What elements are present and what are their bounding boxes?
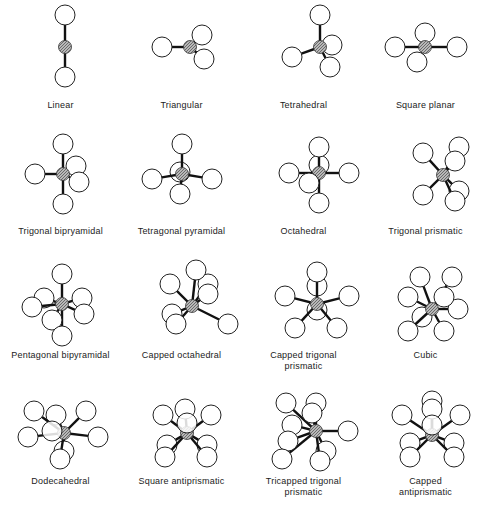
geometry-label: Triangular <box>121 100 242 111</box>
molecule-diagram <box>121 0 242 100</box>
ligand-atom <box>52 264 72 284</box>
ligand-atom <box>442 267 462 287</box>
ligand-atom <box>392 405 412 425</box>
geometry-label-line2: prismatic <box>243 487 364 498</box>
ligand-atom <box>22 297 42 317</box>
central-metal-atom <box>186 300 199 313</box>
ligand-atom <box>55 67 75 87</box>
ligand-atom <box>50 449 70 469</box>
molecule-diagram <box>243 381 364 481</box>
ligand-atom <box>25 164 45 184</box>
ligand-atom <box>445 191 465 211</box>
molecule-diagram <box>0 0 121 100</box>
geometry-label: Trigonal bipryamidal <box>0 226 121 237</box>
geometry-label: Pentagonal bipyramidal <box>0 350 121 361</box>
ligand-atom <box>153 405 173 425</box>
ligand-atom <box>24 401 44 421</box>
ligand-atom <box>400 447 420 467</box>
central-metal-atom <box>176 168 189 181</box>
geometry-label: Capped octahedral <box>121 350 242 361</box>
geometry-square-antiprismatic: Square antiprismatic <box>121 381 242 508</box>
ligand-atom <box>197 447 217 467</box>
ligand-atom <box>152 37 172 57</box>
geometry-label-line1: Trigonal bipryamidal <box>0 226 121 237</box>
geometry-label: Linear <box>0 100 121 111</box>
ligand-atom <box>202 169 222 189</box>
ligand-atom <box>53 194 73 214</box>
ligand-atom <box>339 163 359 183</box>
ligand-atom <box>201 405 221 425</box>
geometry-linear: Linear <box>0 0 121 127</box>
geometry-label: Trigonal prismatic <box>365 226 486 237</box>
ligand-atom <box>160 274 180 294</box>
central-metal-atom <box>311 298 324 311</box>
ligand-atom <box>413 143 433 163</box>
geometry-label: Square antiprismatic <box>121 476 242 487</box>
geometry-label-line2: prismatic <box>243 361 364 372</box>
central-metal-atom <box>426 303 439 316</box>
molecule-diagram <box>365 381 486 481</box>
ligand-atom <box>447 37 467 57</box>
molecule-diagram <box>365 0 486 100</box>
geometry-dodecahedral: Dodecahedral <box>0 381 121 508</box>
ligand-atom <box>276 393 296 413</box>
geometry-label-line2: antiprismatic <box>365 487 486 498</box>
ligand-atom <box>309 193 329 213</box>
ligand-atom <box>76 401 96 421</box>
geometry-tetragonal-pyramidal: Tetragonal pyramidal <box>121 127 242 254</box>
geometry-capped-trigonal-prismatic: Capped trigonalprismatic <box>243 254 364 381</box>
ligand-atom <box>285 318 305 338</box>
ligand-atom <box>327 318 347 338</box>
geometry-label: Square planar <box>365 100 486 111</box>
molecule-diagram <box>365 254 486 354</box>
ligand-atom <box>42 421 62 441</box>
geometry-label-line1: Linear <box>0 100 121 111</box>
ligand-atom <box>385 37 405 57</box>
ligand-atom <box>218 314 238 334</box>
geometry-trigonal-bipyramidal: Trigonal bipryamidal <box>0 127 121 254</box>
geometry-label-line1: Octahedral <box>243 226 364 237</box>
geometry-cubic: Cubic <box>365 254 486 381</box>
geometry-label-line1: Capped <box>365 476 486 487</box>
ligand-atom <box>338 421 358 441</box>
geometry-label: Dodecahedral <box>0 476 121 487</box>
geometry-label: Octahedral <box>243 226 364 237</box>
molecule-diagram <box>365 127 486 227</box>
ligand-atom <box>166 314 186 334</box>
ligand-atom <box>398 321 418 341</box>
central-metal-atom <box>314 41 327 54</box>
ligand-atom <box>444 447 464 467</box>
ligand-atom <box>55 5 75 25</box>
geometry-trigonal-prismatic: Trigonal prismatic <box>365 127 486 254</box>
geometry-label-line1: Square antiprismatic <box>121 476 242 487</box>
geometry-label-line1: Dodecahedral <box>0 476 121 487</box>
molecule-diagram <box>121 254 242 354</box>
central-metal-atom <box>57 168 70 181</box>
geometry-label-line1: Square planar <box>365 100 486 111</box>
central-metal-atom <box>59 41 72 54</box>
geometry-label-line1: Tetrahedral <box>243 100 364 111</box>
ligand-atom <box>413 185 433 205</box>
geometry-capped-antiprismatic: Cappedantiprismatic <box>365 381 486 508</box>
geometry-label-line1: Cubic <box>365 350 486 361</box>
molecule-diagram <box>121 381 242 481</box>
ligand-atom <box>155 447 175 467</box>
ligand-atom <box>299 173 319 193</box>
ligand-atom <box>186 260 206 280</box>
ligand-atom <box>18 427 38 447</box>
geometry-tricapped-trigonal-prismatic: Tricapped trigonalprismatic <box>243 381 364 508</box>
geometry-label-line1: Tetragonal pyramidal <box>121 226 242 237</box>
geometry-label-line1: Trigonal prismatic <box>365 226 486 237</box>
ligand-atom <box>422 415 442 435</box>
molecule-diagram <box>0 254 121 354</box>
geometry-label-line1: Capped octahedral <box>121 350 242 361</box>
ligand-atom <box>278 431 298 451</box>
ligand-atom <box>410 267 430 287</box>
ligand-atom <box>279 163 299 183</box>
geometry-label-line1: Capped trigonal <box>243 350 364 361</box>
geometry-label-line1: Tricapped trigonal <box>243 476 364 487</box>
geometry-label: Tetrahedral <box>243 100 364 111</box>
geometry-square-planar: Square planar <box>365 0 486 127</box>
geometry-octahedral: Octahedral <box>243 127 364 254</box>
ligand-atom <box>194 49 214 69</box>
